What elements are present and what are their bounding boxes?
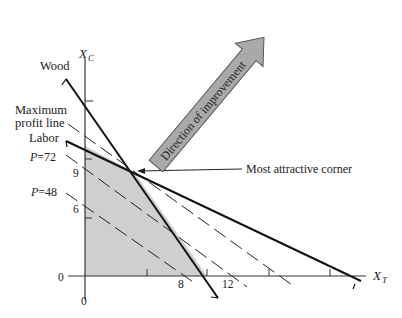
arrowhead-icon xyxy=(137,168,145,174)
p72-label: P=72 xyxy=(29,150,56,164)
direction-arrow-label: Direction of improvement xyxy=(157,58,249,163)
y-tick-label-6: 6 xyxy=(73,203,79,215)
x-tick-label-8: 8 xyxy=(178,278,184,290)
direction-arrow: Direction of improvement xyxy=(142,26,278,178)
labor-label: Labor xyxy=(29,131,60,145)
max-profit-label-line1: Maximum xyxy=(15,103,67,117)
origin-y-label: 0 xyxy=(58,271,64,283)
labor-hook-icon xyxy=(353,284,355,289)
lp-diagram: Direction of improvement XC XT 0 0 9 6 8… xyxy=(0,0,402,318)
wood-hook-icon xyxy=(62,79,66,85)
p48-label: P=48 xyxy=(30,185,57,199)
wood-label: Wood xyxy=(40,59,70,73)
corner-pointer-line xyxy=(139,169,242,171)
origin-x-label: 0 xyxy=(81,295,87,307)
corner-label: Most attractive corner xyxy=(246,162,352,176)
x-tick-label-12: 12 xyxy=(222,278,234,290)
x-axis-label: XT xyxy=(372,268,388,285)
y-axis-label: XC xyxy=(78,46,95,63)
y-tick-label-9: 9 xyxy=(73,167,79,179)
max-profit-label-line2: profit line xyxy=(15,116,65,130)
